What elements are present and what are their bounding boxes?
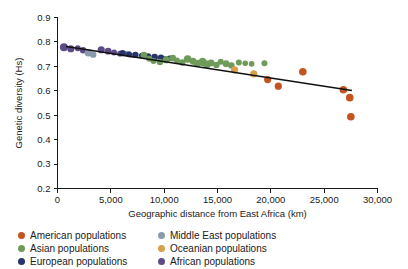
y-tick-label: 0.8: [37, 36, 50, 47]
y-tick-label: 0.9: [37, 12, 50, 23]
legend-swatch-dot-icon: [18, 245, 25, 252]
legend-label: Oceanian populations: [170, 243, 267, 255]
x-tick-label: 20,000: [256, 194, 285, 205]
scatter-plot-figure: 0.20.30.40.50.60.70.80.905,00010,00015,0…: [0, 0, 408, 269]
data-point: [346, 94, 354, 102]
legend-swatch-dot-icon: [158, 232, 165, 239]
y-tick-label: 0.7: [37, 61, 50, 72]
legend-swatch-dot-icon: [18, 258, 25, 265]
legend-label: Middle East populations: [170, 230, 276, 242]
x-tick-label: 15,000: [203, 194, 232, 205]
legend-item: Asian populations: [18, 243, 150, 255]
legend-label: Asian populations: [30, 243, 109, 255]
data-point: [236, 59, 242, 65]
series-asian-populations: [141, 52, 268, 69]
regression-trend-line: [66, 47, 352, 91]
series-american-populations: [264, 68, 355, 121]
legend-item: African populations: [158, 256, 398, 268]
x-tick-label: 5,000: [99, 194, 123, 205]
legend-item: American populations: [18, 230, 150, 242]
legend-label: African populations: [170, 256, 255, 268]
y-tick-label: 0.6: [37, 85, 50, 96]
data-point: [299, 68, 307, 76]
x-axis-title: Geographic distance from East Africa (km…: [128, 208, 306, 219]
legend-item: Middle East populations: [158, 230, 398, 242]
legend-swatch-dot-icon: [18, 232, 25, 239]
y-tick-label: 0.4: [37, 134, 50, 145]
y-axis-title: Genetic diversity (Hs): [13, 58, 24, 149]
data-point: [261, 60, 267, 66]
x-tick-label: 10,000: [150, 194, 179, 205]
y-tick-label: 0.2: [37, 183, 50, 194]
legend-swatch-dot-icon: [158, 258, 165, 265]
axis-spines: [58, 18, 378, 189]
x-tick-label: 25,000: [310, 194, 339, 205]
legend-item: Oceanian populations: [158, 243, 398, 255]
data-point: [347, 113, 355, 121]
x-tick-label: 0: [55, 194, 60, 205]
y-tick-label: 0.3: [37, 158, 50, 169]
x-tick-label: 30,000: [363, 194, 392, 205]
chart-legend: American populationsMiddle East populati…: [18, 229, 398, 268]
data-point: [90, 51, 96, 57]
legend-swatch-dot-icon: [158, 245, 165, 252]
plot-canvas: 0.20.30.40.50.60.70.80.905,00010,00015,0…: [0, 0, 408, 225]
data-point: [242, 60, 248, 66]
y-tick-label: 0.5: [37, 110, 50, 121]
data-point: [275, 83, 282, 90]
legend-label: European populations: [30, 256, 127, 268]
legend-label: American populations: [30, 230, 126, 242]
data-point: [249, 61, 255, 67]
legend-item: European populations: [18, 256, 150, 268]
